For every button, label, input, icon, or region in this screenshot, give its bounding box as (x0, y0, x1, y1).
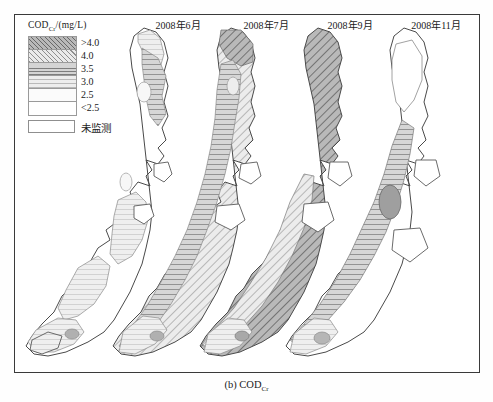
contour-island-1 (235, 331, 249, 341)
inlet-notch-a (414, 160, 440, 186)
contour-island-2 (150, 331, 164, 341)
contour-island-toe (314, 332, 330, 344)
caption-prefix: (b) COD (224, 379, 261, 390)
contour-island-3 (65, 329, 79, 339)
caption-subscript: Cr (262, 385, 269, 393)
figure-caption: (b) CODCr (0, 379, 493, 393)
map-panel-2008-11 (278, 24, 398, 369)
figure-root: CODCr/(mg/L) >4.0 4.0 3.5 3.0 2.5 <2.5 未… (0, 0, 493, 402)
contour-island-dark (379, 185, 401, 219)
